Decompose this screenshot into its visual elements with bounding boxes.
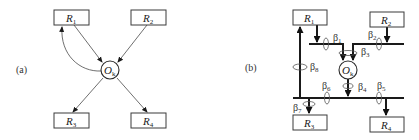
node-r1-b: R1 <box>293 10 327 26</box>
node-r1: R1 <box>54 10 89 26</box>
node-ok-b: Ok <box>339 61 357 79</box>
beta7-label: β7 <box>293 102 302 115</box>
beta4-label: β4 <box>358 81 367 94</box>
node-r4: R4 <box>131 113 166 129</box>
beta5-label: β5 <box>377 80 386 93</box>
panel-b-label: (b) <box>245 62 257 74</box>
beta3-label: β3 <box>361 46 370 59</box>
edge-ok-to-r4 <box>117 78 147 112</box>
edge-ok-to-r1-curved <box>62 27 101 71</box>
edge-r1-to-ok <box>74 25 102 62</box>
node-r3: R3 <box>54 113 89 129</box>
beta2-label: β2 <box>368 29 377 42</box>
node-ok: Ok <box>101 61 119 79</box>
edge-ok-to-r3 <box>73 78 103 112</box>
edge-r2-to-ok <box>118 25 147 62</box>
node-r4-b: R4 <box>370 117 404 133</box>
beta8-label: β8 <box>310 61 319 74</box>
node-r2: R2 <box>131 10 166 26</box>
panel-a: (a) R1 R2 R3 R4 Ok <box>16 10 166 129</box>
panel-b: (b) β1 β2 β3 β4 β5 β6 β7 β8 <box>245 10 404 133</box>
top-bus-left <box>309 44 343 60</box>
beta6-label: β6 <box>322 80 331 93</box>
panel-a-label: (a) <box>16 64 27 76</box>
beta3-ellipse <box>339 51 357 56</box>
node-r2-b: R2 <box>370 12 404 28</box>
node-r3-b: R3 <box>293 115 327 131</box>
diagram-canvas: (a) R1 R2 R3 R4 Ok (b) <box>0 0 419 140</box>
